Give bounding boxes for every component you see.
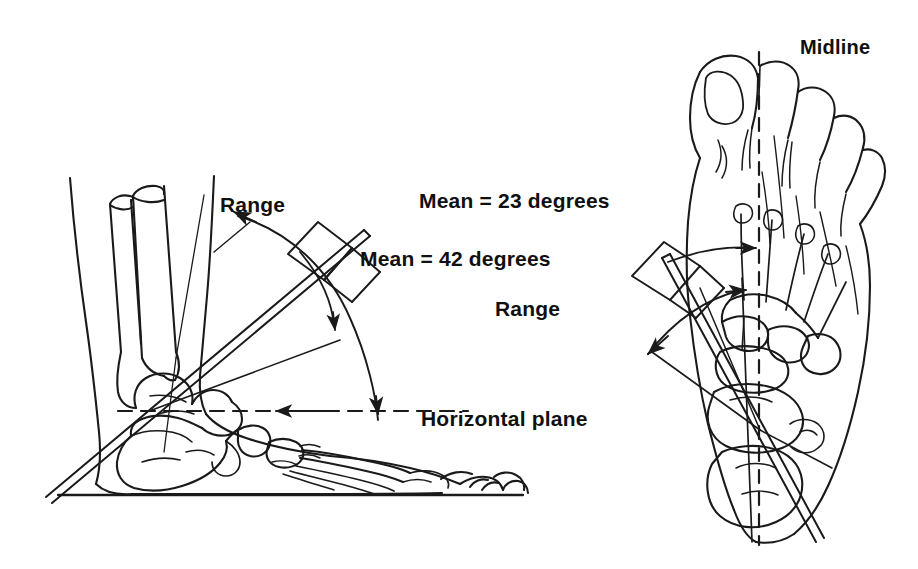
label-mean-23-degrees: Mean = 23 degrees	[419, 189, 610, 213]
label-mean-42-degrees: Mean = 42 degrees	[360, 247, 551, 271]
axis-pin-edge-2	[52, 236, 370, 503]
label-horizontal-plane: Horizontal plane	[421, 407, 588, 431]
anatomical-line-art	[0, 0, 918, 569]
label-range-lateral: Range	[220, 193, 285, 217]
lateral-foot-drawing	[46, 176, 528, 503]
dorsal-foot-drawing	[632, 52, 885, 545]
label-midline: Midline	[800, 36, 870, 59]
figure-canvas: Range Mean = 42 degrees Horizontal plane…	[0, 0, 918, 569]
label-range-dorsal: Range	[495, 297, 560, 321]
mean-angle-bracket	[288, 222, 352, 280]
